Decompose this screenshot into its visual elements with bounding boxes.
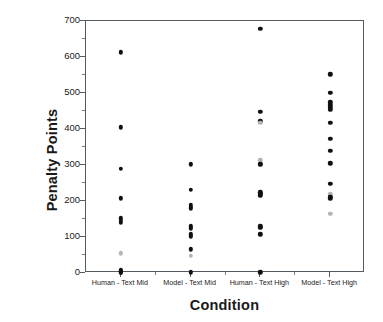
y-tick-label: 500 bbox=[20, 87, 80, 97]
data-point bbox=[328, 161, 332, 165]
data-point bbox=[188, 162, 192, 166]
data-point bbox=[258, 232, 262, 236]
y-tick-label: 200 bbox=[20, 195, 80, 205]
data-point bbox=[328, 120, 332, 124]
data-point bbox=[328, 108, 332, 112]
data-point bbox=[328, 72, 332, 76]
data-point bbox=[119, 220, 123, 224]
data-point bbox=[258, 27, 262, 31]
data-point bbox=[328, 182, 332, 186]
x-tick-label: Model - Text High bbox=[284, 279, 374, 287]
data-point bbox=[119, 166, 123, 170]
data-point bbox=[188, 254, 192, 258]
data-point bbox=[188, 247, 192, 251]
data-point bbox=[119, 125, 123, 129]
data-point bbox=[119, 196, 123, 200]
data-point bbox=[328, 148, 332, 152]
data-point bbox=[258, 163, 262, 167]
data-point bbox=[258, 110, 262, 114]
data-point bbox=[188, 234, 192, 238]
data-point bbox=[258, 193, 262, 197]
data-point bbox=[328, 90, 332, 94]
x-tick-minor-mark bbox=[294, 272, 295, 275]
y-tick-label: 600 bbox=[20, 51, 80, 61]
x-tick-mark bbox=[329, 272, 330, 277]
data-point bbox=[188, 226, 192, 230]
y-tick-label: 700 bbox=[20, 15, 80, 25]
x-tick-minor-mark bbox=[155, 272, 156, 275]
data-point bbox=[188, 206, 192, 210]
data-point bbox=[119, 50, 123, 54]
data-point bbox=[258, 226, 262, 230]
plot-area bbox=[85, 20, 364, 272]
y-tick-mark bbox=[80, 272, 85, 273]
data-point bbox=[258, 121, 262, 125]
data-point bbox=[258, 270, 262, 274]
data-point bbox=[328, 211, 332, 215]
y-tick-label: 400 bbox=[20, 123, 80, 133]
data-point bbox=[188, 270, 192, 274]
data-point bbox=[119, 251, 123, 255]
x-tick-minor-mark bbox=[225, 272, 226, 275]
x-axis-title: Condition bbox=[85, 297, 364, 313]
data-point bbox=[328, 196, 332, 200]
data-point bbox=[188, 188, 192, 192]
y-tick-label: 100 bbox=[20, 231, 80, 241]
data-point bbox=[119, 271, 123, 275]
y-tick-label: 300 bbox=[20, 159, 80, 169]
scatter-plot-figure: Penalty Points Condition 010020030040050… bbox=[0, 0, 383, 322]
data-point bbox=[328, 137, 332, 141]
y-tick-label: 0 bbox=[20, 267, 80, 277]
